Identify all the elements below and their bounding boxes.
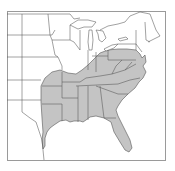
range-map — [0, 0, 175, 171]
lake-michigan — [88, 30, 93, 50]
map-svg — [0, 0, 175, 171]
